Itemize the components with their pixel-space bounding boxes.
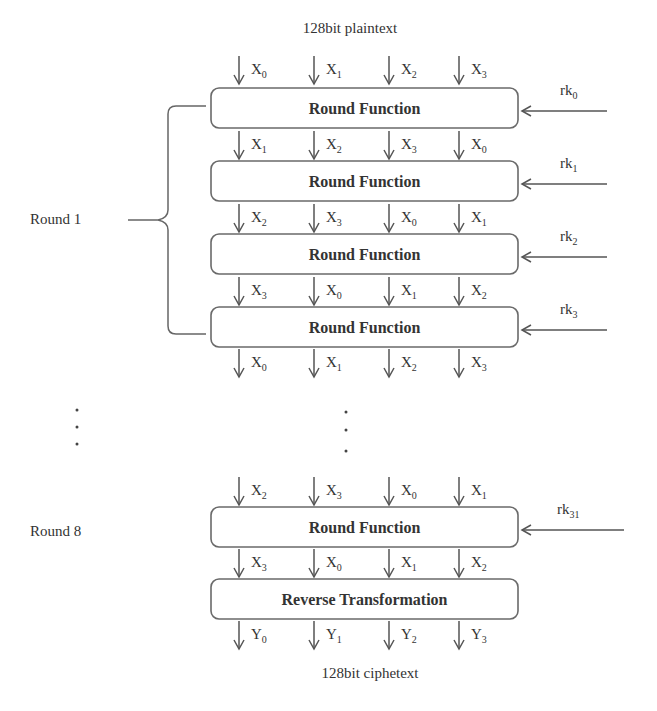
sm4-encryption-diagram: X0X1X2X3Round Functionrk0X1X2X3X0Round F… [0, 0, 657, 711]
round-key-label: rk2 [560, 228, 578, 247]
word-label: X2 [401, 61, 417, 80]
cipher-output-label: Y3 [471, 626, 487, 645]
box-label: Round Function [309, 519, 421, 536]
word-label: X2 [326, 136, 342, 155]
round-label: Round 8 [30, 523, 81, 539]
box-label: Round Function [309, 173, 421, 190]
word-label: X1 [251, 136, 267, 155]
round-key-label: rk3 [560, 301, 578, 320]
box-label: Round Function [309, 319, 421, 336]
round1-output-label: X1 [326, 354, 342, 373]
ellipsis-dot [345, 450, 348, 453]
word-label: X2 [251, 482, 267, 501]
ellipsis-dot [76, 443, 79, 446]
word-label: X2 [471, 282, 487, 301]
round1-output-label: X0 [251, 354, 267, 373]
word-label: X3 [251, 282, 267, 301]
word-label: X0 [326, 554, 342, 573]
cipher-output-label: Y2 [401, 626, 417, 645]
ellipsis-dot [76, 426, 79, 429]
word-label: X2 [251, 209, 267, 228]
word-label: X0 [251, 61, 267, 80]
word-label: X1 [401, 554, 417, 573]
round1-output-label: X3 [471, 354, 487, 373]
round-key-label: rk0 [560, 82, 578, 101]
box-label: Round Function [309, 100, 421, 117]
word-label: X0 [401, 209, 417, 228]
word-label: X1 [471, 482, 487, 501]
word-label: X3 [401, 136, 417, 155]
box-label: Reverse Transformation [281, 591, 447, 608]
ellipsis-dot [76, 409, 79, 412]
ellipsis-dot [345, 411, 348, 414]
word-label: X2 [471, 554, 487, 573]
word-label: X1 [471, 209, 487, 228]
round1-brace [128, 106, 206, 334]
round1-output-label: X2 [401, 354, 417, 373]
cipher-output-label: Y0 [251, 626, 267, 645]
word-label: X1 [326, 61, 342, 80]
word-label: X0 [401, 482, 417, 501]
word-label: X1 [401, 282, 417, 301]
word-label: X0 [471, 136, 487, 155]
round-key-label: rk1 [560, 155, 578, 174]
round-key-label: rk31 [557, 501, 580, 520]
word-label: X0 [326, 282, 342, 301]
ellipsis-dot [345, 429, 348, 432]
word-label: X3 [251, 554, 267, 573]
cipher-output-label: Y1 [326, 626, 342, 645]
box-label: Round Function [309, 246, 421, 263]
round-label: Round 1 [30, 211, 81, 227]
word-label: X3 [326, 482, 342, 501]
word-label: X3 [471, 61, 487, 80]
word-label: X3 [326, 209, 342, 228]
